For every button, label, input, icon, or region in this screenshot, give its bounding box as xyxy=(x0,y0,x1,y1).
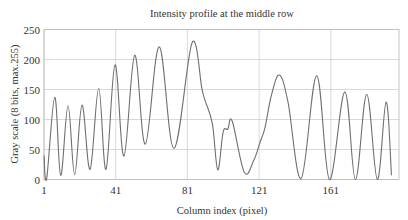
intensity-profile-chart: Intensity profile at the middle row 0501… xyxy=(0,0,408,220)
y-tick-label: 0 xyxy=(35,174,41,186)
y-tick-label: 150 xyxy=(24,84,41,96)
y-tick-label: 100 xyxy=(24,114,41,126)
series-line-intensity-profile xyxy=(44,41,391,180)
plot-frame xyxy=(44,30,399,180)
x-tick-label: 41 xyxy=(110,184,121,196)
x-tick-label: 81 xyxy=(182,184,193,196)
y-tick-label: 50 xyxy=(29,144,41,156)
x-tick-labels: 14181121161 xyxy=(41,184,339,196)
x-tick-label: 1 xyxy=(41,184,47,196)
x-tick-label: 161 xyxy=(323,184,340,196)
grid-layer xyxy=(44,30,399,180)
y-tick-label: 200 xyxy=(24,54,41,66)
chart-title: Intensity profile at the middle row xyxy=(150,8,294,19)
y-tick-label: 250 xyxy=(24,24,41,36)
y-tick-labels: 050100150200250 xyxy=(24,24,41,186)
y-axis-label: Gray scale (8 bits, max.255) xyxy=(9,44,21,163)
x-tick-label: 121 xyxy=(251,184,268,196)
x-axis-label: Column index (pixel) xyxy=(177,205,268,217)
